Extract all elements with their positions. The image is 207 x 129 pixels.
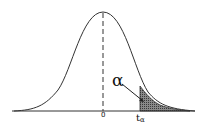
alpha-area-label: α (112, 72, 123, 89)
shaded-tail-region (140, 86, 190, 111)
critical-value-label: tα (136, 113, 145, 124)
zero-label: 0 (101, 112, 105, 119)
density-curve (14, 12, 195, 111)
critical-value-subscript: α (140, 116, 145, 124)
distribution-diagram (0, 0, 207, 129)
